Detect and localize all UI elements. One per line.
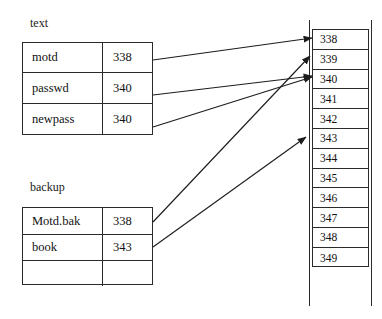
table-row[interactable]: motd 338 <box>23 43 152 73</box>
column-rail-left <box>309 20 310 306</box>
block-cell[interactable]: 347 <box>313 208 368 228</box>
arrow-newpass-to-340 <box>153 77 312 127</box>
block-number-cell <box>103 261 152 286</box>
block-cell[interactable]: 340 <box>313 70 368 90</box>
text-table: motd 338 passwd 340 newpass 340 <box>22 42 153 135</box>
block-number-cell: 343 <box>103 235 152 260</box>
block-number-cell: 340 <box>103 104 152 134</box>
arrow-book-to-343 <box>153 137 306 247</box>
block-cell[interactable]: 339 <box>313 50 368 70</box>
block-cell[interactable]: 343 <box>313 129 368 149</box>
block-number-cell: 338 <box>103 43 152 72</box>
file-name-cell: Motd.bak <box>23 208 103 234</box>
block-list: 338 339 340 341 342 343 344 345 346 347 … <box>312 29 369 267</box>
table-row-empty[interactable] <box>23 261 152 286</box>
arrow-motdbak-to-339 <box>153 56 310 222</box>
file-name-cell: motd <box>23 43 103 72</box>
block-number-cell: 338 <box>103 208 152 234</box>
block-cell[interactable]: 348 <box>313 228 368 248</box>
file-name-cell: book <box>23 235 103 260</box>
block-cell[interactable]: 341 <box>313 89 368 109</box>
backup-table-label: backup <box>30 180 65 194</box>
file-name-cell <box>23 261 103 286</box>
block-cell[interactable]: 342 <box>313 109 368 129</box>
arrow-passwd-to-340 <box>153 76 312 95</box>
backup-table: Motd.bak 338 book 343 <box>22 207 153 285</box>
table-row[interactable]: book 343 <box>23 235 152 261</box>
table-row[interactable]: newpass 340 <box>23 104 152 134</box>
block-cell[interactable]: 344 <box>313 149 368 169</box>
table-row[interactable]: Motd.bak 338 <box>23 208 152 235</box>
block-cell[interactable]: 349 <box>313 248 368 268</box>
file-name-cell: passwd <box>23 73 103 103</box>
file-name-cell: newpass <box>23 104 103 134</box>
block-cell[interactable]: 346 <box>313 188 368 208</box>
arrow-motd-to-338 <box>153 38 312 60</box>
diagram-canvas: text motd 338 passwd 340 newpass 340 bac… <box>0 0 382 319</box>
block-cell[interactable]: 338 <box>313 30 368 50</box>
text-table-label: text <box>30 16 48 30</box>
column-rail-right <box>371 20 372 306</box>
block-cell[interactable]: 345 <box>313 169 368 189</box>
table-row[interactable]: passwd 340 <box>23 73 152 104</box>
block-number-cell: 340 <box>103 73 152 103</box>
